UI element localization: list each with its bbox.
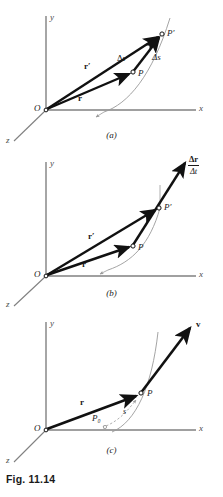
panel-c: y x z O P P₀ r v s (c) <box>0 310 223 470</box>
vector-delta-r-over-delta-t <box>133 163 185 245</box>
scalar-label-s: s <box>123 408 126 416</box>
origin-label: O <box>34 424 41 433</box>
vector-label-r-prime: r′ <box>88 232 95 241</box>
panel-a-graphic <box>0 0 223 150</box>
point-label-P: P <box>147 389 153 398</box>
axis-label-x: x <box>199 270 203 279</box>
panel-b: y x z O P P′ r′ r Δr Δt (b) <box>0 150 223 310</box>
point-P-marker <box>131 70 135 74</box>
vector-label-delta-r: Δr <box>117 54 126 63</box>
point-P-marker <box>131 244 135 248</box>
point-P-zero-marker <box>103 425 106 428</box>
scalar-label-delta-s: Δs <box>152 53 161 62</box>
point-label-P: P <box>138 69 144 78</box>
vector-label-r-prime: r′ <box>84 62 91 71</box>
vector-label-v: v <box>196 320 201 329</box>
axis-label-y: y <box>50 159 54 168</box>
trajectory-tick <box>100 270 108 274</box>
axis-label-x: x <box>199 424 203 433</box>
origin-label: O <box>34 270 41 279</box>
trajectory-curve <box>112 332 158 432</box>
vector-v <box>140 328 190 394</box>
trajectory-tick <box>96 112 104 117</box>
panel-tag-a: (a) <box>0 131 223 140</box>
origin-marker <box>44 274 48 278</box>
vector-label-r: r <box>80 398 84 407</box>
axis-label-x: x <box>199 104 203 113</box>
figure-caption: Fig. 11.14 <box>6 473 55 485</box>
point-label-P-zero: P₀ <box>92 414 101 423</box>
vector-label-r: r <box>82 260 86 269</box>
trajectory-curve <box>108 208 160 270</box>
arc-length-s-path <box>106 400 136 426</box>
panel-a: y x z O P P′ r′ r Δr Δs (a) <box>0 0 223 150</box>
point-P-prime-marker <box>157 206 161 210</box>
panel-tag-c: (c) <box>0 446 223 455</box>
fraction-numerator: Δr <box>188 155 199 166</box>
origin-label: O <box>34 104 41 113</box>
axis-label-y: y <box>50 319 54 328</box>
point-label-P-prime: P′ <box>167 29 174 38</box>
vector-r <box>47 74 129 109</box>
point-label-P-prime: P′ <box>164 203 171 212</box>
point-label-P: P <box>138 243 144 252</box>
origin-marker <box>44 108 48 112</box>
vector-label-r: r <box>78 94 82 103</box>
fraction-delta-r-over-delta-t: Δr Δt <box>188 155 199 176</box>
point-P-prime-marker <box>160 32 164 36</box>
origin-marker <box>44 428 48 432</box>
point-P-marker <box>139 391 143 395</box>
figure-11-14: y x z O P P′ r′ r Δr Δs (a) <box>0 0 223 497</box>
fraction-denominator: Δt <box>188 166 199 176</box>
panel-tag-b: (b) <box>0 289 223 298</box>
axis-label-y: y <box>50 13 54 22</box>
axis-label-z: z <box>6 300 10 309</box>
axis-label-z: z <box>6 456 10 465</box>
